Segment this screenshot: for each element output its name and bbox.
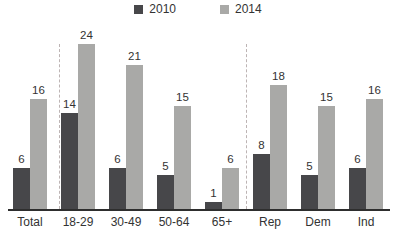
- bar-value-label: 16: [368, 85, 381, 97]
- bar-2010: [301, 175, 318, 209]
- bar-pair: 515: [301, 24, 335, 209]
- bar-with-label: 6: [349, 154, 366, 210]
- bar-pair: 515: [157, 24, 191, 209]
- bar-with-label: 6: [109, 154, 126, 210]
- bar-2014: [222, 168, 239, 209]
- bar-value-label: 5: [306, 161, 312, 173]
- bar-value-label: 6: [227, 154, 233, 166]
- legend-item-2014: 2014: [220, 3, 262, 15]
- bar-2010: [61, 113, 78, 209]
- bar-with-label: 24: [78, 30, 95, 210]
- bar-pair: 621: [109, 24, 143, 209]
- bar-with-label: 6: [13, 154, 30, 210]
- bar-pair: 818: [253, 24, 287, 209]
- bar-value-label: 15: [320, 92, 333, 104]
- bar-group: 515Dem: [301, 24, 335, 228]
- bar-2014: [30, 99, 47, 209]
- bar-2010: [157, 175, 174, 209]
- bar-value-label: 6: [18, 154, 24, 166]
- category-label: 30-49: [111, 216, 142, 228]
- bar-with-label: 5: [301, 161, 318, 210]
- bar-group: 616Total: [13, 24, 47, 228]
- legend: 2010 2014: [0, 3, 396, 15]
- bar-group: 142418-29: [61, 24, 95, 228]
- bar-2014: [366, 99, 383, 209]
- bar-value-label: 6: [114, 154, 120, 166]
- bar-2010: [253, 154, 270, 209]
- bar-with-label: 14: [61, 99, 78, 210]
- bar-with-label: 16: [366, 85, 383, 210]
- x-axis-line: [8, 209, 390, 211]
- bar-with-label: 6: [222, 154, 239, 210]
- bar-pair: 1424: [61, 24, 95, 209]
- bar-2014: [270, 85, 287, 209]
- bar-value-label: 6: [354, 154, 360, 166]
- bar-with-label: 16: [30, 85, 47, 210]
- category-label: Dem: [305, 216, 330, 228]
- bar-2014: [78, 44, 95, 209]
- category-label: 50-64: [159, 216, 190, 228]
- bar-group: 62130-49: [109, 24, 143, 228]
- bar-with-label: 18: [270, 71, 287, 210]
- grouped-bar-chart: 2010 2014 616Total142418-2962130-4951550…: [0, 0, 396, 238]
- bar-value-label: 14: [63, 99, 76, 111]
- bar-with-label: 1: [205, 188, 222, 210]
- bar-2014: [126, 65, 143, 209]
- bar-with-label: 8: [253, 140, 270, 210]
- bar-with-label: 5: [157, 161, 174, 210]
- bar-with-label: 21: [126, 51, 143, 210]
- bar-value-label: 8: [258, 140, 264, 152]
- legend-swatch-2010-icon: [134, 5, 143, 14]
- legend-label-2014: 2014: [235, 3, 262, 15]
- bar-value-label: 18: [272, 71, 285, 83]
- bar-2014: [174, 106, 191, 209]
- bar-2010: [205, 202, 222, 209]
- bar-2010: [13, 168, 30, 209]
- bar-value-label: 1: [210, 188, 216, 200]
- bar-value-label: 24: [80, 30, 93, 42]
- category-label: Rep: [259, 216, 281, 228]
- bar-group: 818Rep: [253, 24, 287, 228]
- bar-2010: [109, 168, 126, 209]
- category-label: Ind: [358, 216, 375, 228]
- bar-group: 1665+: [205, 24, 239, 228]
- legend-swatch-2014-icon: [220, 5, 229, 14]
- bar-with-label: 15: [174, 92, 191, 210]
- bar-2014: [318, 106, 335, 209]
- category-label: 65+: [212, 216, 232, 228]
- bar-group: 616Ind: [349, 24, 383, 228]
- bar-2010: [349, 168, 366, 209]
- bar-pair: 16: [205, 24, 239, 209]
- plot-area: 616Total142418-2962130-4951550-641665+81…: [13, 24, 383, 228]
- bar-value-label: 15: [176, 92, 189, 104]
- bar-value-label: 21: [128, 51, 141, 63]
- bar-pair: 616: [349, 24, 383, 209]
- bar-with-label: 15: [318, 92, 335, 210]
- legend-label-2010: 2010: [149, 3, 176, 15]
- legend-item-2010: 2010: [134, 3, 176, 15]
- category-label: 18-29: [63, 216, 94, 228]
- bar-value-label: 16: [32, 85, 45, 97]
- category-label: Total: [17, 216, 42, 228]
- bar-pair: 616: [13, 24, 47, 209]
- bar-group: 51550-64: [157, 24, 191, 228]
- bar-value-label: 5: [162, 161, 168, 173]
